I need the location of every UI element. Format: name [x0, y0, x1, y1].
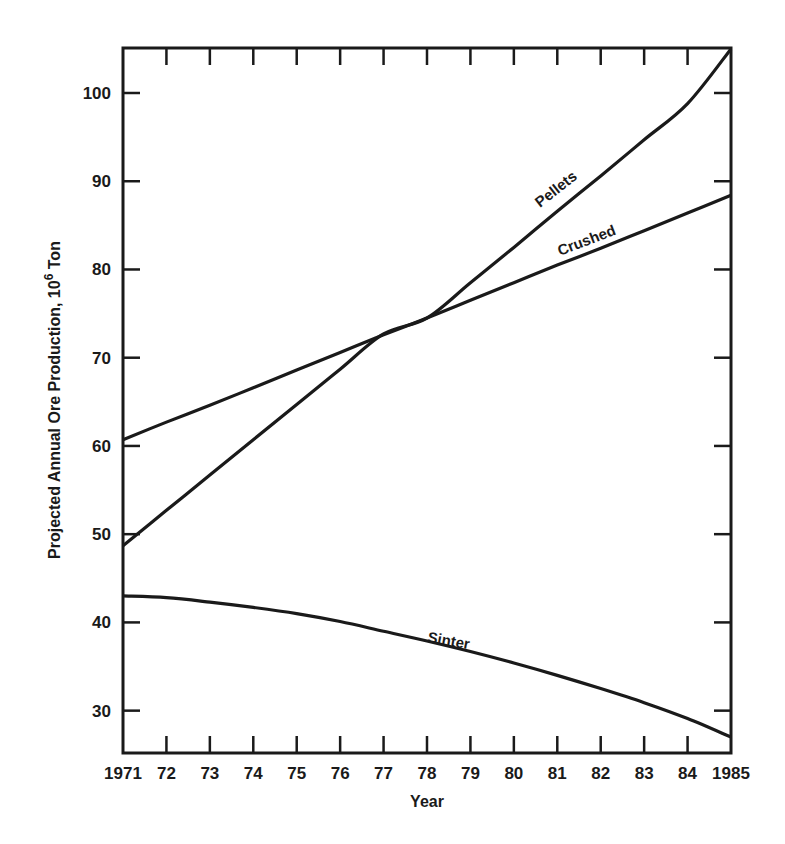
x-tick-label: 82	[591, 764, 610, 783]
x-tick-label: 1971	[104, 764, 142, 783]
x-tick-label: 1985	[712, 764, 750, 783]
plot-frame	[123, 48, 731, 753]
x-axis-title: Year	[410, 793, 444, 810]
ore-production-chart: 1971727374757677787980818283841985304050…	[0, 0, 785, 844]
y-tick-label: 30	[92, 702, 111, 721]
y-tick-label: 80	[92, 260, 111, 279]
x-tick-label: 84	[678, 764, 697, 783]
series-line-pellets	[123, 49, 731, 546]
y-axis-title: Projected Annual Ore Production, 106 Ton	[42, 241, 63, 559]
x-tick-label: 77	[374, 764, 393, 783]
axis-tick-labels: 1971727374757677787980818283841985304050…	[83, 84, 750, 783]
x-tick-label: 75	[287, 764, 306, 783]
x-tick-label: 80	[504, 764, 523, 783]
series-line-crushed	[123, 195, 731, 439]
series-lines	[123, 49, 731, 737]
x-tick-label: 81	[548, 764, 567, 783]
y-tick-label: 90	[92, 172, 111, 191]
axis-ticks	[123, 48, 731, 753]
x-tick-label: 79	[461, 764, 480, 783]
y-tick-label: 100	[83, 84, 111, 103]
series-label-pellets: Pellets	[531, 167, 580, 210]
series-label-sinter: Sinter	[426, 628, 471, 652]
y-tick-label: 50	[92, 525, 111, 544]
x-tick-label: 83	[635, 764, 654, 783]
y-tick-label: 70	[92, 349, 111, 368]
y-tick-label: 40	[92, 613, 111, 632]
y-tick-label: 60	[92, 437, 111, 456]
x-tick-label: 73	[200, 764, 219, 783]
x-tick-label: 78	[418, 764, 437, 783]
series-line-sinter	[123, 596, 731, 737]
x-tick-label: 76	[331, 764, 350, 783]
x-tick-label: 74	[244, 764, 263, 783]
x-tick-label: 72	[157, 764, 176, 783]
